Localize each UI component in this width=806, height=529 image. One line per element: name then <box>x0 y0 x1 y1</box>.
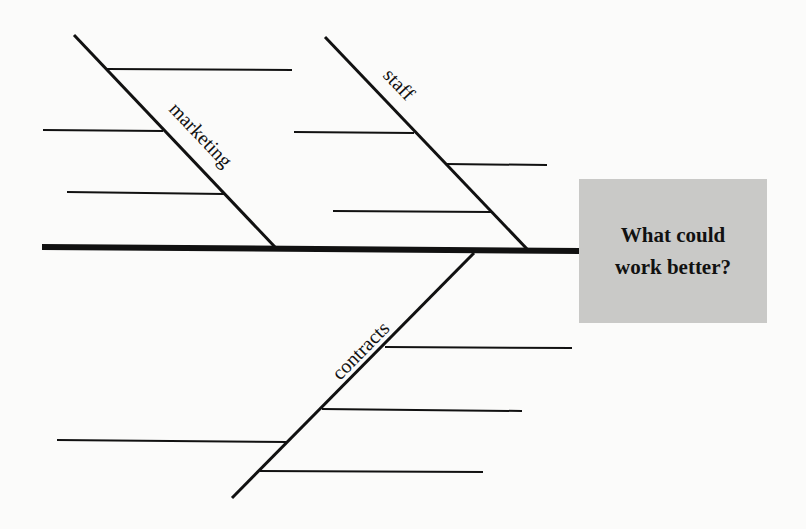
contracts-rib <box>260 471 483 472</box>
contracts-rib <box>322 409 522 411</box>
staff-rib <box>294 132 414 133</box>
contracts-bone <box>232 253 474 498</box>
problem-statement-line1: What could <box>621 219 725 251</box>
marketing-rib <box>67 192 224 194</box>
problem-head-box: What could work better? <box>579 179 767 323</box>
contracts-rib <box>57 440 287 442</box>
fishbone-diagram: marketing staff contracts What could wor… <box>0 0 806 529</box>
staff-rib <box>333 211 491 212</box>
staff-bone <box>325 37 528 250</box>
spine-line <box>42 247 580 251</box>
contracts-rib <box>385 347 572 348</box>
marketing-bone <box>74 35 275 247</box>
branch-label-marketing: marketing <box>164 98 237 173</box>
branch-label-contracts: contracts <box>327 317 393 384</box>
problem-statement-line2: work better? <box>615 251 731 283</box>
marketing-rib <box>107 69 292 70</box>
staff-rib <box>446 164 547 165</box>
marketing-rib <box>43 130 163 131</box>
